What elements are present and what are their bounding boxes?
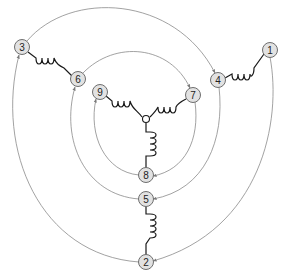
node-5: 5 [139,192,154,207]
arc-5-to-6 [71,87,139,199]
arc-4-to-5 [153,87,220,199]
node-9: 9 [93,85,108,100]
coil-center-7 [150,99,186,117]
arc-8-to-9 [94,99,139,175]
node-6: 6 [71,72,86,87]
coil-5-2 [146,206,156,255]
node-3-label: 3 [19,42,25,53]
node-7: 7 [186,88,201,103]
node-2-label: 2 [143,257,149,268]
node-3: 3 [15,40,30,55]
arc-3-to-4 [27,8,215,73]
node-9-label: 9 [97,87,103,98]
winding-diagram: 1 2 3 4 5 6 7 8 9 [0,0,286,275]
node-4-label: 4 [215,75,221,86]
coil-3-6 [28,52,72,76]
node-2: 2 [139,255,154,270]
node-7-label: 7 [190,90,196,101]
coil-9-center [106,96,142,117]
node-5-label: 5 [143,194,149,205]
arc-6-to-7 [83,52,190,88]
coil-center-8 [146,123,156,168]
coil-4-1 [225,54,264,80]
node-1-label: 1 [267,45,273,56]
node-8: 8 [139,168,154,183]
node-1: 1 [263,43,278,58]
node-8-label: 8 [143,170,149,181]
node-4: 4 [211,73,226,88]
star-point [143,116,150,123]
node-6-label: 6 [75,74,81,85]
arc-1-to-2 [153,57,273,261]
